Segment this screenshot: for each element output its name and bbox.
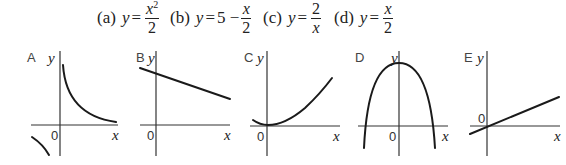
graph-e: E y 0 x bbox=[464, 50, 561, 156]
curve-upper-branch bbox=[63, 65, 116, 122]
origin-label: 0 bbox=[51, 128, 58, 143]
panel-label: A bbox=[27, 50, 36, 65]
origin-label: 0 bbox=[478, 111, 485, 126]
graph-d: D y 0 x bbox=[355, 50, 449, 156]
graph-c: C y 0 x bbox=[244, 50, 340, 156]
curve-lower-branch bbox=[32, 137, 49, 155]
curve-line bbox=[140, 68, 230, 99]
origin-label: 0 bbox=[147, 128, 154, 143]
graph-b: B y 0 x bbox=[136, 50, 231, 156]
origin-label: 0 bbox=[257, 129, 264, 144]
y-axis-label: y bbox=[255, 50, 264, 66]
x-axis-label: x bbox=[441, 128, 449, 144]
x-axis-label: x bbox=[223, 127, 231, 143]
graph-a: A y 0 x bbox=[27, 50, 119, 156]
panel-label: E bbox=[464, 50, 473, 65]
panel-label: C bbox=[244, 50, 253, 65]
panel-label: D bbox=[355, 50, 364, 65]
graph-panels: A y 0 x B y 0 x C y 0 x D y 0 x E bbox=[0, 0, 566, 165]
y-axis-label: y bbox=[475, 50, 484, 66]
x-axis-label: x bbox=[111, 127, 119, 143]
y-axis-label: y bbox=[46, 50, 55, 66]
panel-label: B bbox=[136, 50, 145, 65]
x-axis-label: x bbox=[332, 128, 340, 144]
origin-label: 0 bbox=[389, 129, 396, 144]
curve-parabola bbox=[253, 78, 332, 125]
x-axis-label: x bbox=[553, 128, 561, 144]
y-axis-label: y bbox=[146, 50, 155, 66]
